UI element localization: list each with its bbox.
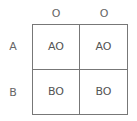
- genotype-cell: BO: [33, 70, 80, 115]
- column-allele-label: O: [32, 7, 80, 20]
- row-allele-label: A: [6, 40, 20, 53]
- column-allele-label: O: [80, 7, 128, 20]
- row-allele-label: B: [6, 86, 20, 99]
- genotype-cell: BO: [80, 70, 127, 115]
- genotype-cell: AO: [80, 25, 127, 70]
- genotype-grid: AO AO BO BO: [32, 24, 128, 115]
- genotype-cell: AO: [33, 25, 80, 70]
